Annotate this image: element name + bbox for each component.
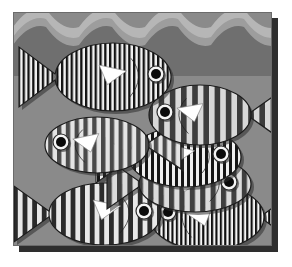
eye-pupil: [139, 206, 149, 216]
eye-pupil: [160, 107, 170, 117]
fish-scene-svg: [13, 12, 278, 252]
artwork-stage: School of Striped Fish Seven striped fis…: [0, 0, 292, 267]
eye-pupil: [151, 69, 161, 79]
eye-pupil: [56, 137, 66, 147]
fish-illustration: [13, 12, 278, 252]
eye-pupil: [216, 149, 226, 159]
